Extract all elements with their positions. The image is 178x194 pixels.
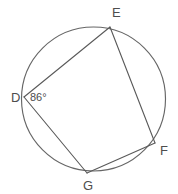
vertex-label-F: F: [160, 143, 168, 158]
geometry-diagram: D E F G 86°: [0, 0, 178, 194]
chord-G-D: [24, 97, 87, 173]
chord-E-F: [110, 27, 155, 143]
vertex-label-E: E: [112, 5, 121, 20]
chord-D-E: [24, 27, 110, 97]
vertex-label-D: D: [11, 90, 20, 105]
angle-measure-label-D: 86°: [30, 91, 47, 103]
chord-F-G: [87, 143, 155, 173]
circle-geometry-figure: D E F G 86°: [0, 0, 178, 194]
vertex-label-G: G: [83, 178, 93, 193]
